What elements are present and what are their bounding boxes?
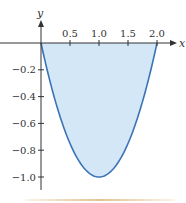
x-tick-label: 1.0 — [91, 28, 107, 39]
x-tick-label: 1.5 — [120, 28, 136, 39]
x-axis-label: x — [179, 37, 186, 50]
y-ticks: −0.2−0.4−0.6−0.8−1.0 — [12, 64, 44, 182]
x-tick-label: 2.0 — [149, 28, 165, 39]
y-tick-label: −0.2 — [12, 64, 36, 75]
y-tick-label: −0.6 — [12, 118, 36, 129]
chart: x y 0.51.01.52.0 −0.2−0.4−0.6−0.8−1.0 — [0, 0, 186, 203]
x-tick-label: 0.5 — [62, 28, 78, 39]
y-tick-label: −0.8 — [12, 145, 36, 156]
y-axis-arrow-icon — [38, 20, 44, 27]
y-tick-label: −0.4 — [12, 91, 36, 102]
y-tick-label: −1.0 — [12, 172, 36, 183]
y-axis-label: y — [36, 7, 44, 20]
x-axis-arrow-icon — [170, 40, 177, 46]
decorative-rule — [25, 199, 175, 201]
